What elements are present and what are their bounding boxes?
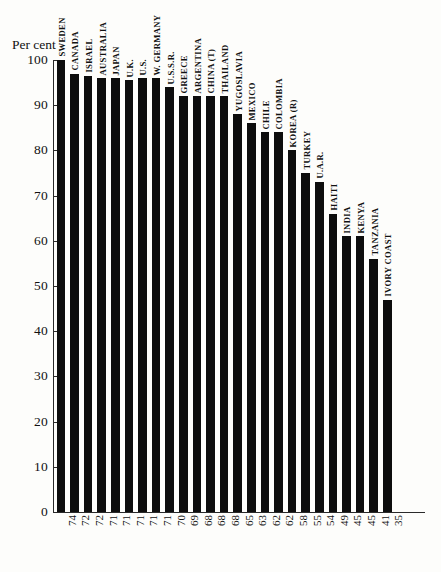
- bar-group: TANZANIA41: [368, 60, 382, 512]
- bar: [165, 87, 174, 512]
- x-axis-tick-label: 71: [121, 515, 132, 526]
- bar-category-label: YUGOSLAVIA: [235, 51, 244, 112]
- bar: [179, 96, 188, 512]
- x-axis-tick-label: 55: [311, 515, 322, 526]
- bar: [70, 74, 79, 512]
- bar-group: SWEDEN74: [55, 60, 69, 512]
- bar: [206, 96, 215, 512]
- bar-category-label: THAILAND: [221, 44, 230, 93]
- bar-group: TURKEY55: [300, 60, 314, 512]
- y-axis-tick-label: 80: [0, 143, 48, 157]
- x-axis-tick-label: 69: [189, 515, 200, 526]
- bar: [125, 80, 134, 512]
- bar: [288, 150, 297, 512]
- y-axis-tick-label: 60: [0, 234, 48, 248]
- y-axis-tick-label: 50: [0, 279, 48, 293]
- bar: [369, 259, 378, 512]
- bar-group: MEXICO63: [245, 60, 259, 512]
- bar-group: CHINA (T)68: [205, 60, 219, 512]
- x-axis-tick-label: 58: [298, 515, 309, 526]
- x-axis-tick-label: 63: [257, 515, 268, 526]
- x-axis-tick-label: 49: [338, 515, 349, 526]
- x-axis-tick-label: 62: [284, 515, 295, 526]
- y-axis-tick-label: 0: [0, 505, 48, 519]
- y-axis-title: Per cent: [12, 38, 56, 52]
- bar: [342, 236, 351, 512]
- bar-group: W. GERMANY71: [150, 60, 164, 512]
- y-axis-tick: [53, 512, 59, 513]
- y-axis-tick-label: 70: [0, 189, 48, 203]
- x-axis-tick-label: 68: [202, 515, 213, 526]
- bar: [356, 236, 365, 512]
- bar: [138, 78, 147, 512]
- bar-group: U.A.R.54: [313, 60, 327, 512]
- bar: [152, 78, 161, 512]
- bar-group: GREECE69: [177, 60, 191, 512]
- x-axis-tick-label: 62: [270, 515, 281, 526]
- bar-category-label: U.S.: [139, 58, 148, 75]
- bar-group: INDIA45: [341, 60, 355, 512]
- x-axis-tick-label: 35: [393, 515, 404, 526]
- bar-group: KENYA45: [354, 60, 368, 512]
- y-axis-tick-label: 100: [0, 53, 48, 67]
- bar: [97, 78, 106, 512]
- x-axis-tick-label: 68: [230, 515, 241, 526]
- x-axis-tick-label: 71: [148, 515, 159, 526]
- bar-category-label: ISRAEL: [85, 39, 94, 73]
- y-axis-tick-label: 30: [0, 369, 48, 383]
- x-axis-tick-label: 70: [175, 515, 186, 526]
- bar: [193, 96, 202, 512]
- bar-group: U.S.S.R.70: [164, 60, 178, 512]
- bar-category-label: MEXICO: [248, 82, 257, 120]
- x-axis-tick-label: 41: [379, 515, 390, 526]
- bar-category-label: JAPAN: [112, 46, 121, 75]
- bar-category-label: U.S.S.R.: [167, 51, 176, 84]
- bar-category-label: IVORY COAST: [384, 233, 393, 296]
- x-axis-tick-label: 74: [66, 515, 77, 526]
- bar-category-label: KOREA (R): [289, 99, 298, 147]
- bar-group: JAPAN71: [109, 60, 123, 512]
- bar-group: ISRAEL72: [82, 60, 96, 512]
- bar: [383, 300, 392, 512]
- x-axis-tick-label: 45: [366, 515, 377, 526]
- y-axis-tick-label: 20: [0, 415, 48, 429]
- bar-category-label: U.A.R.: [316, 152, 325, 179]
- x-axis-tick-label: 71: [134, 515, 145, 526]
- bar: [220, 96, 229, 512]
- x-axis-tick-label: 68: [216, 515, 227, 526]
- bar-group: YUGOSLAVIA65: [232, 60, 246, 512]
- bar-category-label: CHINA (T): [207, 48, 216, 93]
- x-axis-tick-label: 45: [352, 515, 363, 526]
- bar-group: ARGENTINA68: [191, 60, 205, 512]
- bar: [301, 173, 310, 512]
- bar-category-label: INDIA: [343, 206, 352, 233]
- x-axis-tick-label: 72: [80, 515, 91, 526]
- x-axis-tick-label: 54: [325, 515, 336, 526]
- bar-category-label: SWEDEN: [58, 18, 67, 57]
- y-axis-tick-label: 40: [0, 324, 48, 338]
- bar-category-label: CANADA: [71, 31, 80, 70]
- bar: [329, 214, 338, 512]
- bar-category-label: HAITI: [330, 184, 339, 211]
- x-axis-line: [53, 512, 425, 513]
- bar-category-label: TANZANIA: [371, 208, 380, 256]
- bar-group: KOREA (R)58: [286, 60, 300, 512]
- x-axis-tick-label: 71: [162, 515, 173, 526]
- x-axis-tick-label: 65: [243, 515, 254, 526]
- bar-group: AUSTRALIA71: [96, 60, 110, 512]
- bar: [247, 123, 256, 512]
- bar-category-label: COLOMBIA: [275, 78, 284, 130]
- bar-group: COLOMBIA62: [273, 60, 287, 512]
- bar-category-label: U.K.: [126, 59, 135, 78]
- plot-area: SWEDEN74CANADA72ISRAEL72AUSTRALIA71JAPAN…: [54, 60, 424, 512]
- bar-category-label: AUSTRALIA: [99, 21, 108, 75]
- y-axis-tick-label: 90: [0, 98, 48, 112]
- x-axis-tick-label: 72: [94, 515, 105, 526]
- bar-category-label: GREECE: [180, 55, 189, 93]
- x-axis-tick-label: 71: [107, 515, 118, 526]
- bar-group: HAITI49: [327, 60, 341, 512]
- bar-group: U.S.71: [137, 60, 151, 512]
- bar-group: U.K.71: [123, 60, 137, 512]
- bar-category-label: KENYA: [357, 201, 366, 233]
- bar-category-label: CHILE: [262, 100, 271, 129]
